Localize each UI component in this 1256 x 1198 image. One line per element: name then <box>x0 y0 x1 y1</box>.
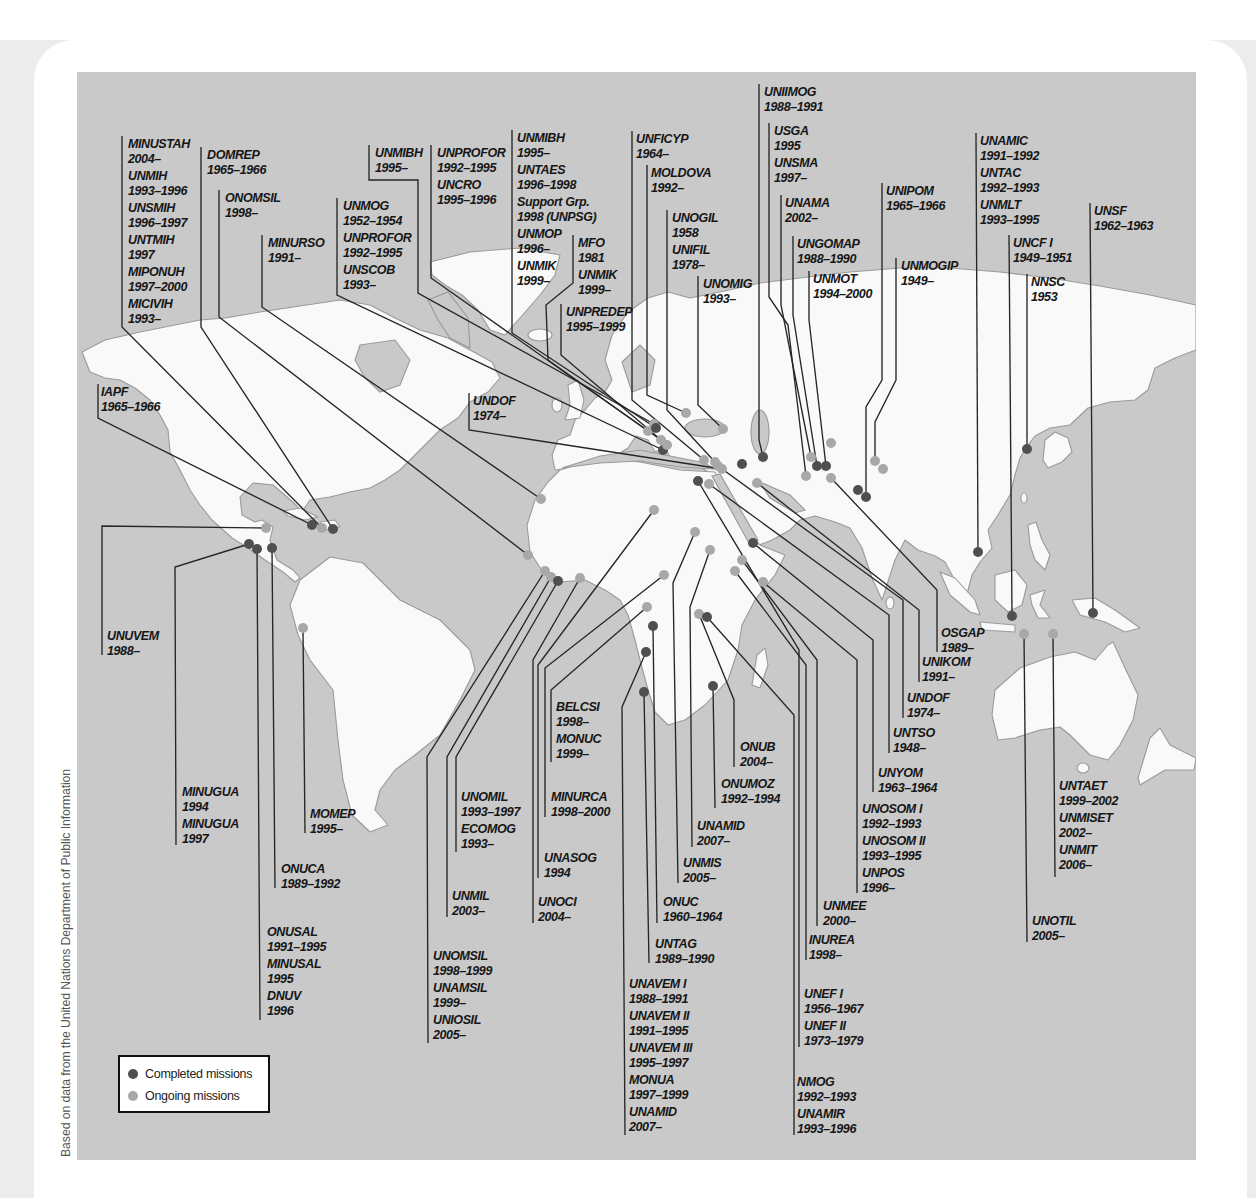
mission-entry: UNOSOM I1992–1993 <box>862 802 925 832</box>
mission-label-undof-b: UNDOF1974– <box>907 691 949 723</box>
mission-entry: NNSC1953 <box>1031 275 1065 305</box>
mission-years: 1963–1964 <box>878 781 937 796</box>
mission-label-unomig: UNOMIG1993– <box>703 277 752 309</box>
mission-years: 1993– <box>703 292 752 307</box>
mission-name: NMOG <box>797 1075 856 1090</box>
mission-name: ONUSAL <box>267 925 326 940</box>
mission-name: MINUSAL <box>267 957 326 972</box>
mission-entry: UNMIH1993–1996 <box>128 169 190 199</box>
mission-years: 1989–1992 <box>281 877 340 892</box>
mission-label-undof-a: UNDOF1974– <box>473 394 515 426</box>
mission-years: 1998– <box>225 206 281 221</box>
mission-name: UNCRO <box>437 178 505 193</box>
mission-entry: UNIIMOG1988–1991 <box>764 85 823 115</box>
mission-entry: UNOCI2004– <box>538 895 576 925</box>
mission-entry: MINUSTAH2004– <box>128 137 190 167</box>
mission-entry: Support Grp.1998 (UNPSG) <box>517 195 596 225</box>
mission-name: USGA <box>774 124 818 139</box>
mission-name: UNIKOM <box>922 655 970 670</box>
mission-name: UNIOSIL <box>433 1013 492 1028</box>
mission-entry: UNAMIR1993–1996 <box>797 1107 856 1137</box>
mission-label-unprofor: UNPROFOR1992–1995UNCRO1995–1996 <box>437 146 505 210</box>
mission-name: UNMLT <box>980 198 1039 213</box>
mission-years: 1962–1963 <box>1094 219 1153 234</box>
mission-entry: UNGOMAP1988–1990 <box>797 237 859 267</box>
mission-entry: UNUVEM1988– <box>107 629 159 659</box>
mission-name: UNOMIG <box>703 277 752 292</box>
mission-name: UNOGIL <box>672 211 718 226</box>
mission-entry: UNMIT2006– <box>1059 843 1118 873</box>
mission-years: 1997 <box>182 832 239 847</box>
mission-name: UNMIH <box>128 169 190 184</box>
mission-years: 1953 <box>1031 290 1065 305</box>
mission-entry: IAPF1965–1966 <box>101 385 160 415</box>
mission-entry: UNMLT1993–1995 <box>980 198 1039 228</box>
mission-name: ONUCA <box>281 862 340 877</box>
mission-years: 1995–1997 <box>629 1056 692 1071</box>
mission-years: 1998– <box>809 948 855 963</box>
mission-label-momep: MOMEP1995– <box>310 807 355 839</box>
mission-years: 1965–1966 <box>101 400 160 415</box>
mission-name: MINUSTAH <box>128 137 190 152</box>
mission-label-unmot: UNMOT1994–2000 <box>813 272 872 304</box>
mission-label-unikom: UNIKOM1991– <box>922 655 970 687</box>
mission-name: ONOMSIL <box>225 191 281 206</box>
mission-label-unomil: UNOMIL1993–1997ECOMOG1993– <box>461 790 520 854</box>
mission-years: 1960–1964 <box>663 910 722 925</box>
mission-label-nnsc: NNSC1953 <box>1031 275 1065 307</box>
mission-entry: UNSF1962–1963 <box>1094 204 1153 234</box>
mission-name: UNSMIH <box>128 201 190 216</box>
mission-years: 1996–1997 <box>128 216 190 231</box>
mission-name: MFO <box>578 236 617 251</box>
mission-label-minugua: MINUGUA1994MINUGUA1997 <box>182 785 239 849</box>
mission-entry: UNOMSIL1998–1999 <box>433 949 492 979</box>
mission-label-iapf: IAPF1965–1966 <box>101 385 160 417</box>
mission-label-unotil: UNOTIL2005– <box>1032 914 1076 946</box>
mission-years: 1994 <box>544 866 596 881</box>
mission-entry: ONUCA1989–1992 <box>281 862 340 892</box>
mission-name: UNSMA <box>774 156 818 171</box>
mission-years: 1991– <box>268 251 324 266</box>
mission-years: 2007– <box>629 1120 692 1135</box>
mission-years: 1978– <box>672 258 718 273</box>
mission-name: MINURSO <box>268 236 324 251</box>
mission-label-minurca: MINURCA1998–2000 <box>551 790 610 822</box>
mission-years: 1999–2002 <box>1059 794 1118 809</box>
mission-years: 1996–1998 <box>517 178 596 193</box>
legend-item-completed: Completed missions <box>120 1065 268 1083</box>
mission-label-onusal: ONUSAL1991–1995MINUSAL1995DNUV1996 <box>267 925 326 1021</box>
mission-entry: MOLDOVA1992– <box>651 166 711 196</box>
mission-entry: UNCRO1995–1996 <box>437 178 505 208</box>
mission-entry: OSGAP1989– <box>941 626 984 656</box>
mission-label-uniimog: UNIIMOG1988–1991 <box>764 85 823 117</box>
mission-name: UNMIBH <box>375 146 423 161</box>
mission-entry: UNTAET1999–2002 <box>1059 779 1118 809</box>
mission-label-nmog: NMOG1992–1993UNAMIR1993–1996 <box>797 1075 856 1139</box>
mission-label-onumoz: ONUMOZ1992–1994 <box>721 777 780 809</box>
mission-years: 2004– <box>128 152 190 167</box>
mission-entry: UNASOG1994 <box>544 851 596 881</box>
mission-entry: MOMEP1995– <box>310 807 355 837</box>
mission-years: 1995–1996 <box>437 193 505 208</box>
mission-entry: ONOMSIL1998– <box>225 191 281 221</box>
mission-years: 1974– <box>473 409 515 424</box>
mission-years: 1994 <box>182 800 239 815</box>
mission-years: 1993–1995 <box>862 849 925 864</box>
legend-item-ongoing: Ongoing missions <box>120 1087 268 1105</box>
mission-name: MONUC <box>556 732 601 747</box>
mission-entry: UNTAC1992–1993 <box>980 166 1039 196</box>
mission-years: 1992– <box>651 181 711 196</box>
mission-years: 2005– <box>1032 929 1076 944</box>
mission-years: 1952–1954 <box>343 214 411 229</box>
mission-name: UNAVEM II <box>629 1009 692 1024</box>
mission-label-unasog: UNASOG1994 <box>544 851 596 883</box>
mission-name: UNTSO <box>893 726 935 741</box>
mission-years: 2006– <box>1059 858 1118 873</box>
mission-label-untaet: UNTAET1999–2002UNMISET2002–UNMIT2006– <box>1059 779 1118 875</box>
mission-years: 1995– <box>375 161 423 176</box>
mission-entry: ONUC1960–1964 <box>663 895 722 925</box>
mission-entry: UNMIBH1995– <box>375 146 423 176</box>
ongoing-dot-icon <box>128 1091 138 1101</box>
mission-years: 1949– <box>901 274 958 289</box>
mission-years: 1964– <box>636 147 688 162</box>
